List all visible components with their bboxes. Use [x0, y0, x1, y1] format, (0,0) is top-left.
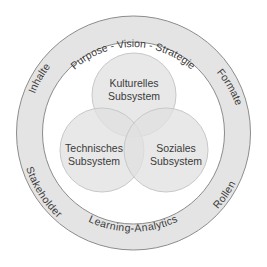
label-soziales-line1: Soziales: [156, 142, 196, 154]
label-technisches-line1: Technisches: [65, 142, 123, 154]
label-technisches-line2: Subsystem: [68, 155, 120, 167]
diagram-canvas: Purpose - Vision - Strategie Inhalte For…: [0, 0, 267, 267]
label-soziales-line2: Subsystem: [150, 155, 202, 167]
label-kulturelles-line2: Subsystem: [108, 90, 160, 102]
label-kulturelles-line1: Kulturelles: [109, 77, 158, 89]
